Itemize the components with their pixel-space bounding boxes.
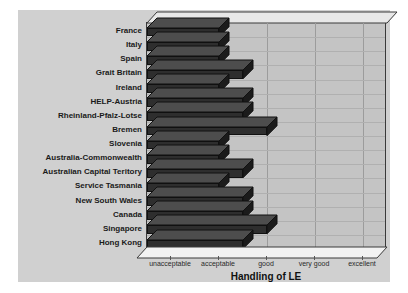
category-label: Australia-Commonwealth <box>46 153 142 162</box>
plot-depth-floor <box>137 247 387 258</box>
bar-top-face <box>147 117 279 129</box>
x-axis-title: Handling of LE <box>146 271 386 282</box>
bar-top-face <box>147 230 255 242</box>
chart-figure: FranceItalySpainGrait BritainIrelandHELP… <box>18 10 390 282</box>
category-label: Hong Kong <box>99 238 142 247</box>
x-tick-label: good <box>258 260 274 267</box>
bar-top-face <box>147 102 255 114</box>
category-axis-labels: FranceItalySpainGrait BritainIrelandHELP… <box>18 22 144 248</box>
bar-side-face <box>267 117 279 138</box>
category-label: Italy <box>126 40 142 49</box>
x-tick-label: very good <box>299 260 330 267</box>
category-label: New South Wales <box>76 196 142 205</box>
category-label: Grait Britain <box>96 68 142 77</box>
bar-top-face <box>147 159 255 171</box>
category-label: Slovenia <box>109 139 142 148</box>
bar-top-face <box>147 187 255 199</box>
category-label: Spain <box>120 54 142 63</box>
x-tick-label: excellent <box>348 260 376 267</box>
plot-area <box>146 22 386 248</box>
x-tick-label: acceptable <box>201 260 235 267</box>
category-label: Ireland <box>116 83 142 92</box>
bar-side-face <box>243 60 255 81</box>
bar-top-face <box>147 88 255 100</box>
x-tick-label: unacceptable <box>149 260 191 267</box>
category-label: Service Tasmania <box>75 181 142 190</box>
category-label: Rheinland-Pfalz-Lotse <box>58 111 142 120</box>
category-label: Canada <box>113 210 142 219</box>
category-label: Bremen <box>112 125 142 134</box>
bar-top-face <box>147 60 255 72</box>
category-label: France <box>116 26 142 35</box>
bar-side-face <box>267 215 279 236</box>
category-label: HELP-Austria <box>90 97 142 106</box>
bar-side-face <box>243 159 255 180</box>
category-label: Singapore <box>103 224 142 233</box>
bar-series <box>147 23 385 247</box>
category-label: Australian Capital Teritory <box>43 167 142 176</box>
bar-top-face <box>147 201 255 213</box>
bar-top-face <box>147 215 279 227</box>
